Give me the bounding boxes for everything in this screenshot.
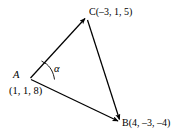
angle-arc-alpha [45, 63, 55, 80]
vertex-label-b: B(4, –3, –4) [122, 118, 170, 128]
vector-AB-arrow [31, 80, 118, 122]
vector-CB-arrow [88, 20, 120, 120]
angle-label-alpha: α [54, 64, 60, 75]
vertex-label-c: C(–3, 1, 5) [89, 7, 132, 17]
vector-triangle-figure: A (1, 1, 8) C(–3, 1, 5) B(4, –3, –4) α [0, 0, 184, 137]
vertex-label-a: A [13, 70, 19, 81]
vertex-coords-a: (1, 1, 8) [9, 86, 42, 97]
